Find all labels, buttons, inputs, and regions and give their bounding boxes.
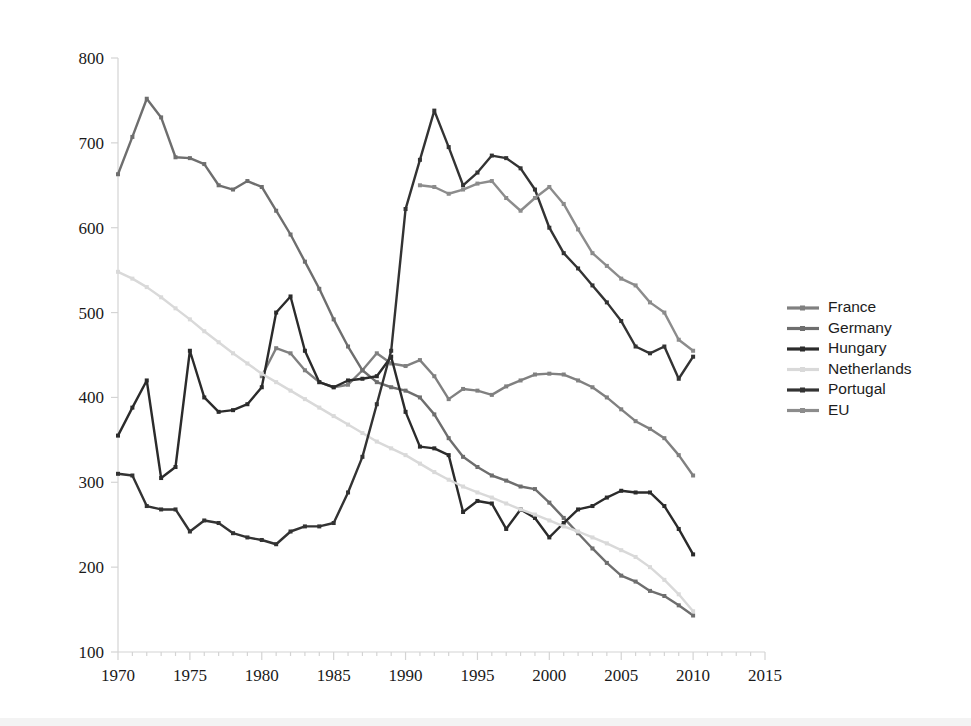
data-point-marker [130,135,134,139]
data-point-marker [519,209,523,213]
data-point-marker [289,294,293,298]
data-point-marker [317,287,321,291]
data-point-marker [332,385,336,389]
data-point-marker [576,530,580,534]
data-point-marker [447,397,451,401]
data-point-marker [231,188,235,192]
data-point-marker [519,378,523,382]
data-point-marker [231,351,235,355]
data-point-marker [332,414,336,418]
data-point-marker [389,446,393,450]
data-point-marker [590,251,594,255]
data-point-marker [634,345,638,349]
data-point-marker [130,277,134,281]
data-point-marker [389,385,393,389]
series-line [118,111,693,545]
data-point-marker [634,490,638,494]
data-point-marker [490,473,494,477]
data-point-marker [202,329,206,333]
data-point-marker [490,393,494,397]
x-tick-label: 2005 [604,666,638,685]
data-point-marker [619,407,623,411]
legend-item-hungary[interactable]: Hungary [787,339,887,356]
data-point-marker [159,115,163,119]
data-point-marker [691,614,695,618]
data-point-marker [533,188,537,192]
data-point-marker [130,473,134,477]
data-point-marker [605,541,609,545]
data-point-marker [188,530,192,534]
data-point-marker [662,504,666,508]
series-line [118,272,693,611]
data-point-marker [562,373,566,377]
data-point-marker [619,548,623,552]
legend-marker [800,347,805,352]
legend-marker [800,408,805,413]
y-tick-label: 500 [79,304,105,323]
data-point-marker [375,380,379,384]
x-tick-label: 2015 [748,666,782,685]
legend-item-netherlands[interactable]: Netherlands [787,360,912,377]
data-point-marker [202,162,206,166]
data-point-marker [519,166,523,170]
data-point-marker [447,145,451,149]
data-point-marker [245,179,249,183]
data-point-marker [360,431,364,435]
data-point-marker [590,535,594,539]
data-point-marker [432,446,436,450]
data-point-marker [475,499,479,503]
data-point-marker [317,524,321,528]
data-point-marker [605,300,609,304]
data-point-marker [605,496,609,500]
data-point-marker [619,489,623,493]
data-point-marker [432,109,436,113]
series-line [118,296,693,554]
data-point-marker [245,535,249,539]
data-point-marker [576,378,580,382]
data-point-marker [130,406,134,410]
data-point-marker [231,531,235,535]
data-point-marker [116,472,120,476]
data-point-marker [332,521,336,525]
data-point-marker [404,207,408,211]
y-tick-label: 700 [79,134,105,153]
legend-label: Germany [828,319,892,336]
data-point-marker [217,340,221,344]
data-point-marker [619,277,623,281]
data-point-marker [547,372,551,376]
data-point-marker [360,455,364,459]
data-point-marker [547,518,551,522]
x-tick-label: 2010 [676,666,710,685]
data-point-marker [461,387,465,391]
data-point-marker [245,361,249,365]
legend-item-france[interactable]: France [787,298,876,315]
legend-item-portugal[interactable]: Portugal [787,380,886,397]
series-line [118,99,693,616]
data-point-marker [605,395,609,399]
data-point-marker [475,171,479,175]
series-germany [116,97,695,618]
data-point-marker [360,368,364,372]
data-point-marker [217,410,221,414]
data-point-marker [648,589,652,593]
data-point-marker [691,349,695,353]
legend-marker [800,306,805,311]
bottom-edge-strip [0,718,971,726]
data-point-marker [634,283,638,287]
x-tick-label: 1980 [245,666,279,685]
data-point-marker [619,574,623,578]
legend-item-germany[interactable]: Germany [787,319,892,336]
legend-marker [800,388,805,393]
data-point-marker [174,507,178,511]
data-point-marker [432,185,436,189]
data-point-marker [533,513,537,517]
legend-item-eu[interactable]: EU [787,401,850,418]
data-point-marker [677,527,681,531]
data-point-marker [332,317,336,321]
data-point-marker [475,389,479,393]
data-point-marker [274,346,278,350]
series-hungary [116,294,695,556]
series-line [420,181,693,351]
x-axis-ticks [118,652,765,660]
data-point-marker [145,285,149,289]
